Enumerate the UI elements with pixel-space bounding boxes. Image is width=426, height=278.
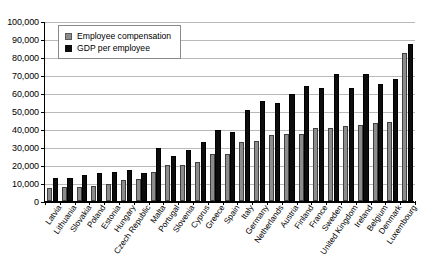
bar-gdp-per-employee — [275, 103, 280, 201]
bar-gdp-per-employee — [186, 150, 191, 201]
bar-group — [311, 21, 326, 201]
bar-group — [237, 21, 252, 201]
x-axis-labels: LatviaLithuaniaSlovakiaPolandEstoniaHung… — [44, 204, 414, 278]
bar-employee-compensation — [225, 154, 230, 201]
y-axis-tick-label: 80,000 — [12, 53, 39, 63]
bar-employee-compensation — [402, 53, 407, 202]
bar-gdp-per-employee — [378, 84, 383, 201]
bar-employee-compensation — [47, 188, 52, 202]
bar-employee-compensation — [210, 154, 215, 201]
bar-employee-compensation — [62, 187, 67, 201]
bar-gdp-per-employee — [201, 142, 206, 201]
bar-group — [400, 21, 415, 201]
y-axis-tick-label: 20,000 — [12, 161, 39, 171]
bar-employee-compensation — [195, 162, 200, 201]
bar-employee-compensation — [239, 142, 244, 201]
bar-gdp-per-employee — [215, 130, 220, 201]
bar-gdp-per-employee — [319, 88, 324, 201]
bar-gdp-per-employee — [53, 178, 58, 201]
bar-gdp-per-employee — [97, 173, 102, 201]
bar-gdp-per-employee — [156, 148, 161, 201]
bar-gdp-per-employee — [304, 86, 309, 201]
bar-group — [326, 21, 341, 201]
bar-employee-compensation — [269, 135, 274, 201]
y-axis-tick-label: 100,000 — [7, 17, 39, 27]
bar-group — [371, 21, 386, 201]
y-axis-tick-label: 30,000 — [12, 143, 39, 153]
bar-gdp-per-employee — [245, 110, 250, 201]
x-axis-tick — [415, 201, 416, 205]
legend-label: Employee compensation — [77, 31, 171, 41]
bar-employee-compensation — [77, 187, 82, 201]
bar-gdp-per-employee — [393, 79, 398, 201]
bar-group — [297, 21, 312, 201]
bar-gdp-per-employee — [112, 172, 117, 201]
legend-item-employee-compensation: Employee compensation — [65, 30, 171, 42]
bar-employee-compensation — [121, 180, 126, 201]
y-axis-tick-label: 40,000 — [12, 125, 39, 135]
bar-group — [193, 21, 208, 201]
bar-gdp-per-employee — [334, 74, 339, 201]
bar-group — [356, 21, 371, 201]
bar-chart: 010,00020,00030,00040,00050,00060,00070,… — [0, 0, 426, 278]
bar-group — [252, 21, 267, 201]
gray-square-icon — [65, 33, 72, 40]
bar-group — [341, 21, 356, 201]
y-axis-tick-label: 10,000 — [12, 179, 39, 189]
bar-gdp-per-employee — [289, 94, 294, 201]
bar-gdp-per-employee — [408, 44, 413, 201]
bar-group — [267, 21, 282, 201]
bar-employee-compensation — [387, 122, 392, 201]
legend-item-gdp-per-employee: GDP per employee — [65, 42, 171, 54]
bar-group — [223, 21, 238, 201]
bar-gdp-per-employee — [82, 175, 87, 201]
bar-employee-compensation — [254, 141, 259, 201]
bar-group — [208, 21, 223, 201]
bar-gdp-per-employee — [260, 101, 265, 201]
bar-gdp-per-employee — [127, 170, 132, 201]
bar-gdp-per-employee — [171, 156, 176, 201]
bar-employee-compensation — [343, 126, 348, 201]
bar-gdp-per-employee — [230, 132, 235, 201]
bar-group — [282, 21, 297, 201]
bar-employee-compensation — [284, 134, 289, 201]
bar-gdp-per-employee — [349, 88, 354, 201]
bar-gdp-per-employee — [67, 178, 72, 201]
bar-employee-compensation — [373, 123, 378, 201]
y-axis-tick-label: 90,000 — [12, 35, 39, 45]
y-axis-tick-label: 50,000 — [12, 107, 39, 117]
bar-employee-compensation — [151, 172, 156, 201]
bar-employee-compensation — [313, 128, 318, 201]
y-axis-tick-label: 60,000 — [12, 89, 39, 99]
bar-employee-compensation — [299, 134, 304, 201]
bar-employee-compensation — [180, 165, 185, 201]
bar-employee-compensation — [136, 179, 141, 201]
bar-gdp-per-employee — [141, 173, 146, 201]
y-axis-tick-label: 0 — [34, 197, 39, 207]
bar-employee-compensation — [106, 184, 111, 201]
black-square-icon — [65, 45, 72, 52]
bar-employee-compensation — [328, 128, 333, 201]
bar-group — [385, 21, 400, 201]
bar-employee-compensation — [165, 165, 170, 201]
legend-label: GDP per employee — [77, 43, 150, 53]
y-axis-tick-label: 70,000 — [12, 71, 39, 81]
chart-legend: Employee compensation GDP per employee — [58, 25, 181, 59]
bar-gdp-per-employee — [363, 74, 368, 201]
bar-employee-compensation — [91, 186, 96, 201]
bar-employee-compensation — [358, 125, 363, 202]
